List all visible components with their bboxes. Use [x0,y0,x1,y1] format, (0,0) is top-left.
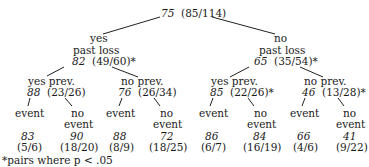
leaf-fraction: (18/25) [149,142,187,153]
leaf-label: event [199,108,228,119]
left-yes-prev-fraction: (23/26) [47,86,85,98]
leaf-label: event [290,108,319,119]
left-branch-yes-label: yes [90,33,108,44]
left-yes-prev-percent: 88 [27,86,40,98]
right-no-prev-node: 46 (13/28)* [302,87,366,98]
left-branch-node: 82 (49/60)* [72,56,136,67]
leaf-label: event [336,119,365,130]
left-branch-percent: 82 [72,55,85,67]
right-no-prev-fraction: (13/28)* [322,86,366,98]
leaf-label: event [64,119,93,130]
leaf-label: event [153,119,182,130]
left-branch-fraction: (49/60)* [92,55,136,67]
root-percent: 75 [161,7,174,19]
right-yes-prev-fraction: (22/26)* [230,86,274,98]
leaf-label: event [106,108,135,119]
leaf-label: event [15,108,44,119]
leaf-fraction: (8/9) [109,142,134,153]
right-branch-percent: 65 [254,55,267,67]
right-branch-node: 65 (35/54)* [254,56,318,67]
root-node: 75 (85/114) [161,8,226,19]
right-yes-prev-percent: 85 [210,86,223,98]
leaf-fraction: (16/19) [243,142,281,153]
left-no-prev-percent: 76 [118,86,131,98]
right-yes-prev-node: 85 (22/26)* [210,87,274,98]
leaf-fraction: (9/22) [336,142,368,153]
right-no-prev-percent: 46 [302,86,315,98]
root-fraction: (85/114) [181,7,226,19]
leaf-label: event [247,119,276,130]
leaf-fraction: (5/6) [17,142,42,153]
left-no-prev-node: 76 (26/34) [118,87,177,98]
footnote: *pairs where p < .05 [2,155,113,166]
right-branch-no-label: no [274,33,287,44]
right-branch-fraction: (35/54)* [274,55,318,67]
leaf-fraction: (18/20) [60,142,98,153]
left-no-prev-fraction: (26/34) [138,86,176,98]
left-yes-prev-node: 88 (23/26) [27,87,86,98]
leaf-fraction: (4/6) [293,142,318,153]
leaf-fraction: (6/7) [201,142,226,153]
